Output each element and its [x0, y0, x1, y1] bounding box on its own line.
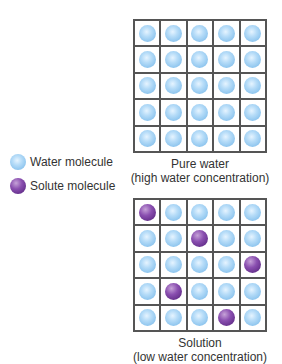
grid-cell: [134, 252, 160, 278]
grid-cell: [187, 73, 213, 99]
water-molecule-icon: [218, 25, 235, 42]
solute-molecule-icon: [218, 309, 235, 326]
water-molecule-icon: [165, 256, 182, 273]
grid-cell: [240, 99, 266, 125]
water-molecule-icon: [191, 104, 208, 121]
grid-cell: [134, 199, 160, 225]
grid-cell: [160, 278, 186, 304]
water-molecule-icon: [244, 77, 261, 94]
grid-cell: [240, 199, 266, 225]
pure-water-subtitle: (high water concentration): [120, 171, 280, 185]
water-molecule-icon: [218, 256, 235, 273]
water-molecule-icon: [218, 283, 235, 300]
water-molecule-icon: [139, 104, 156, 121]
legend-solute: Solute molecule: [10, 178, 115, 194]
grid-cell: [187, 20, 213, 46]
water-molecule-icon: [139, 256, 156, 273]
grid-cell: [134, 305, 160, 331]
water-molecule-icon: [139, 25, 156, 42]
water-molecule-icon: [218, 130, 235, 147]
grid-cell: [213, 20, 239, 46]
grid-cell: [213, 305, 239, 331]
grid-cell: [134, 99, 160, 125]
grid-cell: [213, 126, 239, 152]
grid-cell: [240, 278, 266, 304]
grid-cell: [160, 225, 186, 251]
solute-molecule-icon: [139, 204, 156, 221]
grid-cell: [240, 225, 266, 251]
water-molecule-icon: [165, 25, 182, 42]
water-molecule-icon: [165, 104, 182, 121]
grid-cell: [187, 305, 213, 331]
water-molecule-icon: [191, 130, 208, 147]
grid-cell: [213, 46, 239, 72]
pure-water-title: Pure water: [120, 157, 280, 171]
water-molecule-icon: [244, 25, 261, 42]
water-molecule-icon: [244, 130, 261, 147]
legend-water: Water molecule: [10, 154, 113, 170]
water-molecule-icon: [244, 283, 261, 300]
solution-subtitle: (low water concentration): [120, 350, 280, 364]
grid-cell: [240, 252, 266, 278]
grid-cell: [134, 73, 160, 99]
pure-water-caption: Pure water (high water concentration): [120, 157, 280, 185]
water-molecule-icon: [218, 104, 235, 121]
water-molecule-icon: [165, 309, 182, 326]
grid-cell: [160, 46, 186, 72]
grid-cell: [160, 252, 186, 278]
grid-cell: [160, 199, 186, 225]
water-molecule-icon: [244, 309, 261, 326]
grid-cell: [213, 278, 239, 304]
grid-cell: [134, 126, 160, 152]
water-molecule-icon: [191, 25, 208, 42]
grid-cell: [187, 126, 213, 152]
grid-cell: [240, 73, 266, 99]
grid-cell: [134, 278, 160, 304]
grid-cell: [160, 73, 186, 99]
water-molecule-icon: [218, 230, 235, 247]
water-molecule-icon: [218, 77, 235, 94]
water-molecule-icon: [191, 283, 208, 300]
grid-cell: [187, 46, 213, 72]
grid-cell: [134, 20, 160, 46]
water-molecule-icon: [139, 230, 156, 247]
water-molecule-icon: [139, 130, 156, 147]
grid-cell: [160, 99, 186, 125]
water-molecule-icon: [165, 230, 182, 247]
grid-cell: [187, 225, 213, 251]
pure-water-grid: [133, 19, 267, 153]
solute-molecule-icon: [191, 230, 208, 247]
water-molecule-icon: [165, 77, 182, 94]
water-molecule-icon: [139, 77, 156, 94]
grid-cell: [240, 126, 266, 152]
solution-caption: Solution (low water concentration): [120, 336, 280, 364]
grid-cell: [240, 305, 266, 331]
water-molecule-icon: [139, 51, 156, 68]
grid-cell: [187, 252, 213, 278]
grid-cell: [134, 46, 160, 72]
water-molecule-icon: [191, 77, 208, 94]
water-molecule-icon: [139, 283, 156, 300]
water-molecule-icon: [165, 204, 182, 221]
grid-cell: [160, 126, 186, 152]
water-molecule-icon: [244, 204, 261, 221]
water-molecule-icon: [165, 51, 182, 68]
legend-solute-label: Solute molecule: [30, 179, 115, 193]
grid-cell: [240, 46, 266, 72]
solute-molecule-icon: [165, 283, 182, 300]
grid-cell: [213, 225, 239, 251]
grid-cell: [213, 252, 239, 278]
water-molecule-icon: [244, 104, 261, 121]
grid-cell: [240, 20, 266, 46]
grid-cell: [160, 305, 186, 331]
grid-cell: [213, 199, 239, 225]
water-molecule-icon: [218, 51, 235, 68]
grid-cell: [160, 20, 186, 46]
water-molecule-icon: [10, 154, 26, 170]
water-molecule-icon: [191, 51, 208, 68]
grid-cell: [213, 73, 239, 99]
grid-cell: [187, 278, 213, 304]
water-molecule-icon: [218, 204, 235, 221]
solution-title: Solution: [120, 336, 280, 350]
solute-molecule-icon: [10, 178, 26, 194]
